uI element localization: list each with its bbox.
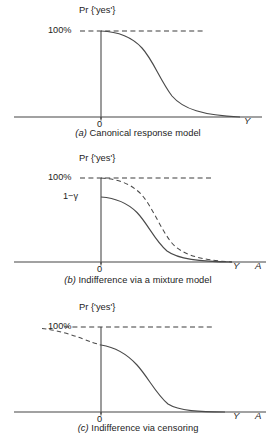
figure-response-curves: Pr {'yes'} 100% 0 Y (a) Canonical respon… <box>0 0 276 448</box>
caption-b: (b) Indifference via a mixture model <box>0 275 276 285</box>
curve-mixture-attenuated <box>101 197 232 262</box>
caption-a-text: Canonical response model <box>89 128 200 138</box>
x-axis-label-a-b: A <box>255 260 261 271</box>
x-axis-label-y-a: Y <box>244 115 250 126</box>
curve-canonical-reference <box>101 178 232 262</box>
y-tick-label-100pct-b: 100% <box>48 172 72 182</box>
y-axis-title-c: Pr {'yes'} <box>79 301 115 312</box>
curve-censored-response <box>101 345 225 412</box>
y-tick-label-one-minus-gamma: 1−γ <box>63 191 78 201</box>
x-axis-label-y-c: Y <box>233 410 239 421</box>
caption-a-prefix: (a) <box>75 128 87 138</box>
caption-c-prefix: (c) <box>78 423 89 433</box>
caption-a: (a) Canonical response model <box>0 128 276 138</box>
y-tick-label-100pct-a: 100% <box>48 25 72 35</box>
panel-a: Pr {'yes'} 100% 0 Y (a) Canonical respon… <box>0 0 276 150</box>
origin-label-b: 0 <box>97 264 102 274</box>
y-axis-title-a: Pr {'yes'} <box>79 4 115 15</box>
y-axis-title-b: Pr {'yes'} <box>79 152 115 163</box>
caption-b-prefix: (b) <box>64 275 76 285</box>
caption-b-text: Indifference via a mixture model <box>78 275 211 285</box>
caption-c-text: Indifference via censoring <box>91 423 198 433</box>
caption-c: (c) Indifference via censoring <box>0 423 276 433</box>
x-axis-label-a-c: A <box>255 410 261 421</box>
curve-canonical-response <box>101 31 240 117</box>
panel-b: Pr {'yes'} 100% 1−γ 0 Y A (b) Indifferen… <box>0 150 276 297</box>
x-axis-label-y-b: Y <box>233 260 239 271</box>
panel-c: Pr {'yes'} 100% 0 Y A (c) Indifference v… <box>0 297 276 448</box>
y-tick-label-100pct-c: 100% <box>48 321 72 331</box>
